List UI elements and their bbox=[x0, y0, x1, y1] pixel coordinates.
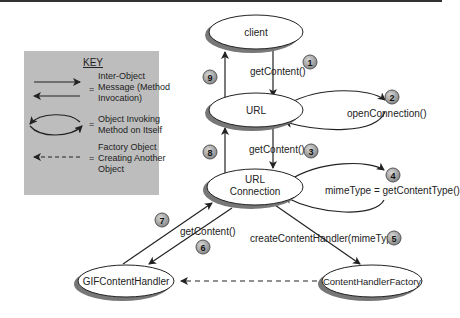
edge-label-3: getContent() bbox=[249, 144, 305, 155]
step-badge-1: 1 bbox=[303, 55, 317, 69]
key-entry-2-line2: Method on Itself bbox=[98, 125, 163, 135]
step-badge-3: 3 bbox=[304, 144, 318, 158]
key-legend: KEY = Inter-Object Message (Method Invoc… bbox=[24, 51, 170, 195]
key-entry-2-line1: Object Invoking bbox=[98, 114, 160, 124]
key-entry-1-line1: Inter-Object bbox=[98, 71, 146, 81]
svg-text:8: 8 bbox=[207, 148, 212, 158]
node-client-label: client bbox=[244, 27, 268, 38]
step-badge-2: 2 bbox=[385, 90, 399, 104]
node-gifcontenthandler: GIFContentHandler bbox=[74, 265, 174, 301]
svg-text:=: = bbox=[89, 119, 94, 129]
key-entry-1-line2: Message (Method bbox=[98, 82, 170, 92]
svg-text:2: 2 bbox=[389, 93, 394, 103]
edge-label-4: mimeType = getContentType() bbox=[325, 185, 460, 196]
svg-text:=: = bbox=[89, 84, 94, 94]
key-entry-3-line2: Creating Another bbox=[98, 153, 166, 163]
step-badge-4: 4 bbox=[386, 168, 400, 182]
key-entry-3-line3: Object bbox=[98, 164, 125, 174]
step-badge-9: 9 bbox=[203, 70, 217, 84]
svg-text:=: = bbox=[89, 153, 94, 163]
node-urlconnection: URL Connection bbox=[203, 169, 303, 209]
node-url-label: URL bbox=[246, 105, 266, 116]
key-entry-3-line1: Factory Object bbox=[98, 142, 157, 152]
node-urlconnection-label-1: URL bbox=[245, 174, 265, 185]
step-badge-7: 7 bbox=[155, 213, 169, 227]
svg-text:7: 7 bbox=[159, 216, 164, 226]
diagram-canvas: KEY = Inter-Object Message (Method Invoc… bbox=[0, 0, 460, 318]
edge-label-2: openConnection() bbox=[347, 108, 427, 119]
svg-text:9: 9 bbox=[207, 73, 212, 83]
svg-text:4: 4 bbox=[390, 171, 395, 181]
edge-label-1: getContent() bbox=[250, 66, 306, 77]
svg-text:3: 3 bbox=[308, 147, 313, 157]
svg-text:6: 6 bbox=[200, 243, 205, 253]
node-gif-label: GIFContentHandler bbox=[83, 276, 170, 287]
svg-text:5: 5 bbox=[391, 234, 396, 244]
step-badge-6: 6 bbox=[196, 240, 210, 254]
step-badge-8: 8 bbox=[203, 145, 217, 159]
edge-label-6: getContent() bbox=[180, 226, 236, 237]
node-client: client bbox=[205, 15, 303, 53]
node-url: URL bbox=[205, 93, 303, 131]
step-badge-5: 5 bbox=[387, 231, 401, 245]
node-contenthandlerfactory: ContentHandlerFactory bbox=[318, 265, 422, 301]
edge-label-5: createContentHandler(mimeType) bbox=[250, 233, 401, 244]
key-title: KEY bbox=[83, 57, 103, 68]
key-entry-1-line3: Invocation) bbox=[98, 93, 142, 103]
node-factory-label: ContentHandlerFactory bbox=[323, 276, 421, 287]
node-urlconnection-label-2: Connection bbox=[230, 186, 281, 197]
svg-text:1: 1 bbox=[307, 58, 312, 68]
